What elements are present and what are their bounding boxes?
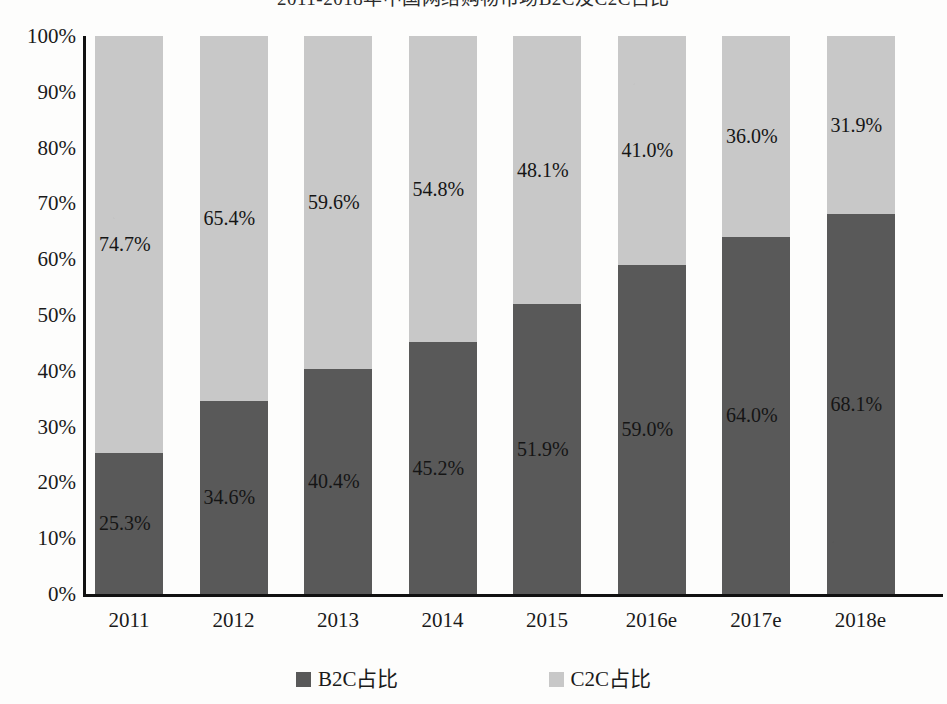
x-axis-tick-2016e: 2016e bbox=[600, 608, 704, 633]
bar-group-2011[interactable]: 74.7%25.3% bbox=[95, 36, 163, 594]
bar-group-2012[interactable]: 65.4%34.6% bbox=[200, 36, 268, 594]
y-axis-tick-80pct: 80% bbox=[6, 137, 76, 158]
y-axis-tick-30pct: 30% bbox=[6, 416, 76, 437]
bar-label-c2c-2017e: 36.0% bbox=[726, 126, 778, 146]
bar-group-2015[interactable]: 48.1%51.9% bbox=[513, 36, 581, 594]
legend-item-b2c[interactable]: B2C占比 bbox=[296, 669, 399, 690]
bar-label-c2c-2011: 74.7% bbox=[99, 234, 151, 254]
bar-segment-c2c-2013[interactable]: 59.6% bbox=[304, 36, 372, 369]
chart-legend: B2C占比C2C占比 bbox=[0, 662, 947, 696]
bar-segment-c2c-2016e[interactable]: 41.0% bbox=[618, 36, 686, 265]
x-axis-tick-2011: 2011 bbox=[77, 608, 181, 633]
legend-swatch-b2c bbox=[296, 672, 311, 687]
bar-group-2017e[interactable]: 36.0%64.0% bbox=[722, 36, 790, 594]
legend-label-b2c: B2C占比 bbox=[318, 669, 399, 690]
plot-area: 74.7%25.3%65.4%34.6%59.6%40.4%54.8%45.2%… bbox=[83, 36, 943, 597]
bar-segment-b2c-2016e[interactable]: 59.0% bbox=[618, 265, 686, 594]
bar-group-2014[interactable]: 54.8%45.2% bbox=[409, 36, 477, 594]
x-axis-tick-2015: 2015 bbox=[495, 608, 599, 633]
bar-label-c2c-2014: 54.8% bbox=[413, 179, 465, 199]
bar-label-c2c-2016e: 41.0% bbox=[622, 140, 674, 160]
bar-label-c2c-2013: 59.6% bbox=[308, 192, 360, 212]
x-axis-tick-2013: 2013 bbox=[286, 608, 390, 633]
y-axis-tick-40pct: 40% bbox=[6, 360, 76, 381]
y-axis-tick-0pct: 0% bbox=[6, 584, 76, 605]
y-axis-tick-100pct: 100% bbox=[6, 26, 76, 47]
bar-segment-c2c-2017e[interactable]: 36.0% bbox=[722, 36, 790, 237]
bar-segment-c2c-2014[interactable]: 54.8% bbox=[409, 36, 477, 342]
bar-segment-b2c-2012[interactable]: 34.6% bbox=[200, 401, 268, 594]
bar-label-c2c-2018e: 31.9% bbox=[831, 115, 883, 135]
legend-swatch-c2c bbox=[549, 672, 564, 687]
bar-group-2018e[interactable]: 31.9%68.1% bbox=[827, 36, 895, 594]
bar-segment-c2c-2018e[interactable]: 31.9% bbox=[827, 36, 895, 214]
bar-label-b2c-2011: 25.3% bbox=[99, 513, 151, 533]
y-axis-tick-labels: 0%10%20%30%40%50%60%70%80%90%100% bbox=[0, 36, 76, 597]
x-axis-tick-labels: 201120122013201420152016e2017e2018e bbox=[83, 608, 943, 642]
bar-segment-b2c-2014[interactable]: 45.2% bbox=[409, 342, 477, 594]
x-axis-tick-2017e: 2017e bbox=[704, 608, 808, 633]
bar-label-b2c-2018e: 68.1% bbox=[831, 394, 883, 414]
x-axis-tick-2012: 2012 bbox=[182, 608, 286, 633]
bar-label-b2c-2016e: 59.0% bbox=[622, 419, 674, 439]
y-axis-tick-10pct: 10% bbox=[6, 528, 76, 549]
x-axis-tick-2014: 2014 bbox=[391, 608, 495, 633]
bar-label-c2c-2015: 48.1% bbox=[517, 160, 569, 180]
bar-label-c2c-2012: 65.4% bbox=[204, 208, 256, 228]
bar-label-b2c-2012: 34.6% bbox=[204, 487, 256, 507]
bar-segment-b2c-2017e[interactable]: 64.0% bbox=[722, 237, 790, 594]
bar-segment-b2c-2013[interactable]: 40.4% bbox=[304, 369, 372, 594]
y-axis-tick-50pct: 50% bbox=[6, 305, 76, 326]
bar-group-2016e[interactable]: 41.0%59.0% bbox=[618, 36, 686, 594]
y-axis-tick-70pct: 70% bbox=[6, 193, 76, 214]
y-axis-tick-90pct: 90% bbox=[6, 81, 76, 102]
y-axis-tick-20pct: 20% bbox=[6, 472, 76, 493]
x-axis-tick-2018e: 2018e bbox=[809, 608, 913, 633]
bar-label-b2c-2017e: 64.0% bbox=[726, 405, 778, 425]
bar-label-b2c-2014: 45.2% bbox=[413, 458, 465, 478]
x-axis-line bbox=[83, 594, 943, 597]
y-axis-line bbox=[83, 36, 86, 597]
bar-segment-c2c-2012[interactable]: 65.4% bbox=[200, 36, 268, 401]
chart-title: 2011-2018年中国网络购物市场B2C及C2C占比 bbox=[0, 0, 947, 10]
bar-segment-b2c-2018e[interactable]: 68.1% bbox=[827, 214, 895, 594]
bar-segment-b2c-2011[interactable]: 25.3% bbox=[95, 453, 163, 594]
bar-group-2013[interactable]: 59.6%40.4% bbox=[304, 36, 372, 594]
y-axis-tick-60pct: 60% bbox=[6, 249, 76, 270]
legend-label-c2c: C2C占比 bbox=[571, 669, 652, 690]
bar-label-b2c-2015: 51.9% bbox=[517, 439, 569, 459]
bar-segment-b2c-2015[interactable]: 51.9% bbox=[513, 304, 581, 594]
bar-label-b2c-2013: 40.4% bbox=[308, 471, 360, 491]
bar-segment-c2c-2011[interactable]: 74.7% bbox=[95, 36, 163, 453]
bar-segment-c2c-2015[interactable]: 48.1% bbox=[513, 36, 581, 304]
legend-item-c2c[interactable]: C2C占比 bbox=[549, 669, 652, 690]
